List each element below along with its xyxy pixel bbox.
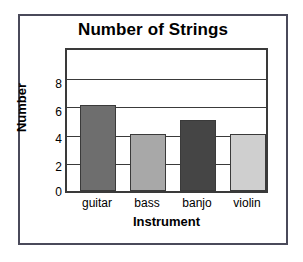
x-tick-label-violin: violin — [217, 196, 277, 210]
bar-violin — [230, 134, 266, 191]
y-tick-label: 6 — [40, 106, 62, 118]
y-tick-label: 8 — [40, 78, 62, 90]
y-tick-label: 2 — [40, 161, 62, 173]
y-tick-label: 4 — [40, 133, 62, 145]
bar-banjo — [180, 120, 216, 192]
y-axis-tick-labels: 8 6 4 2 0 — [38, 48, 62, 193]
chart-title: Number of Strings — [18, 20, 288, 40]
chart-figure: Number of Strings Number 8 6 4 2 0 guita… — [0, 0, 303, 262]
y-tick-label: 0 — [40, 186, 62, 198]
plot-inner — [67, 50, 266, 191]
y-axis-title: Number — [14, 78, 29, 138]
bar-guitar — [80, 105, 116, 191]
gridline-8 — [67, 79, 266, 80]
plot-area — [65, 48, 268, 193]
x-axis-title: Instrument — [65, 214, 268, 229]
x-axis-tick-labels: guitar bass banjo violin — [65, 196, 268, 212]
bar-bass — [130, 134, 166, 191]
